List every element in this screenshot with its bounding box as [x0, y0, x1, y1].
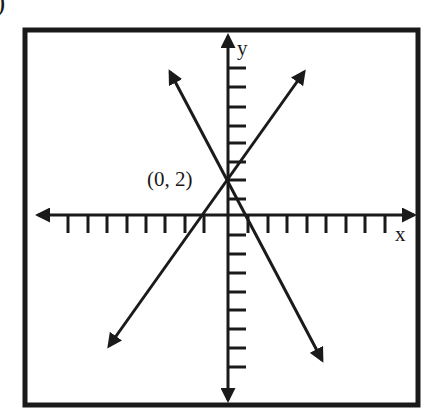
positive-slope-line — [109, 72, 304, 346]
intersection-point-label: (0, 2) — [147, 167, 193, 192]
graph-frame — [25, 30, 418, 405]
graph-figure: ) y x (0, 2) — [0, 0, 440, 419]
y-axis-label: y — [237, 36, 248, 61]
x-axis-label: x — [395, 222, 406, 247]
coordinate-plane — [0, 0, 440, 419]
y-axis-ticks — [228, 68, 246, 367]
part-marker: ) — [0, 0, 5, 18]
